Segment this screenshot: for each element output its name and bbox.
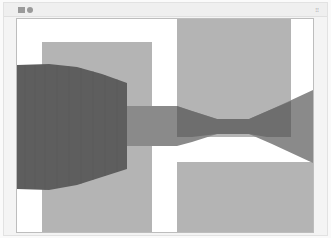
drawing-canvas[interactable] — [16, 18, 314, 233]
dark-band — [17, 64, 127, 190]
status-dot-icon[interactable] — [27, 7, 33, 13]
light-rect-bottom-right — [177, 162, 314, 233]
grip-icon[interactable]: ⁝⁝ — [315, 7, 319, 13]
canvas-svg — [17, 19, 314, 233]
app-icon[interactable] — [18, 7, 25, 13]
title-bar[interactable]: ⁝⁝ — [4, 3, 327, 17]
app-window: ⁝⁝ — [3, 2, 328, 236]
